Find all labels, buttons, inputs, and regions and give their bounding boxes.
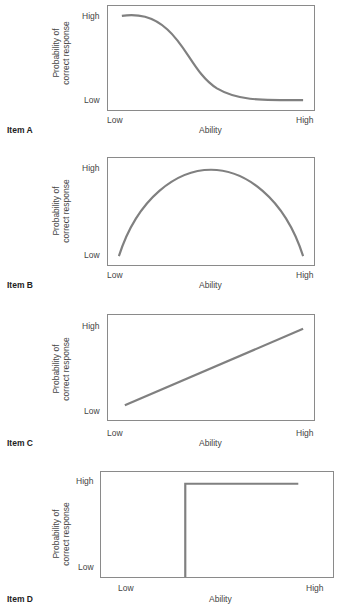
chart-item-d: Probability of correct response High Low… xyxy=(0,0,339,608)
y-tick-high: High xyxy=(76,476,93,486)
line-step-function xyxy=(101,472,333,577)
y-axis-label: Probability of correct response xyxy=(51,494,73,574)
x-axis-label: Ability xyxy=(209,594,232,604)
x-tick-low: Low xyxy=(118,583,134,593)
item-label: Item D xyxy=(7,594,33,604)
y-tick-low: Low xyxy=(78,562,94,572)
plot-area xyxy=(100,471,334,578)
x-tick-high: High xyxy=(306,583,323,593)
